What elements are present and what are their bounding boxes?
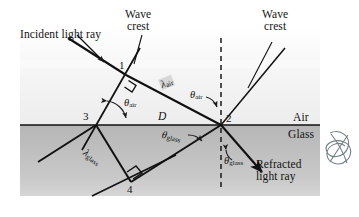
wave-crest-left-line1: Wave	[125, 8, 151, 20]
wave-crest-left-label: Wave crest	[125, 8, 151, 32]
theta-air-normal-subscript: air	[195, 93, 202, 101]
air-medium-label: Air	[293, 111, 309, 123]
wave-crest-right-label: Wave crest	[262, 8, 288, 32]
refracted-ray-line2: light ray	[256, 170, 302, 182]
wave-crest-right-line1: Wave	[262, 8, 288, 20]
refracted-ray-line1: Refracted	[256, 158, 302, 170]
wave-crest-right-line2: crest	[262, 20, 288, 32]
theta-air-normal-label: θair	[190, 89, 203, 101]
distance-D-label: D	[158, 110, 166, 122]
point-label-4: 4	[127, 184, 133, 196]
point-label-2: 2	[226, 113, 232, 125]
incident-light-ray-label: Incident light ray	[20, 28, 101, 40]
point-label-3: 3	[83, 111, 89, 123]
theta-air-point3-subscript: air	[129, 101, 136, 109]
refracted-light-ray-label: Refracted light ray	[256, 158, 302, 182]
theta-glass-normal-subscript: glass	[229, 159, 243, 167]
theta-glass-normal-label: θglass	[224, 155, 243, 167]
glass-medium-label: Glass	[288, 128, 314, 140]
theta-air-point3-label: θair	[124, 97, 137, 109]
wave-crest-left-line2: crest	[125, 20, 151, 32]
figure-canvas: Incident light ray Wave crest Wave crest…	[0, 0, 359, 217]
point-label-1: 1	[119, 60, 125, 72]
